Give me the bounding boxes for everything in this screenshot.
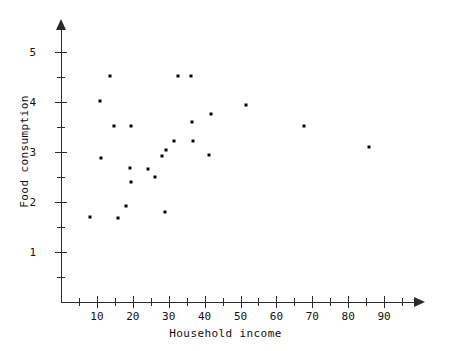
x-axis-minor-tick	[115, 298, 116, 306]
data-point	[192, 140, 195, 143]
data-point	[244, 104, 247, 107]
x-axis-tick-label: 50	[226, 310, 256, 323]
data-point	[191, 120, 194, 123]
x-axis-minor-tick	[366, 298, 367, 306]
x-axis-minor-tick	[294, 298, 295, 306]
x-axis-tick-label: 60	[261, 310, 291, 323]
y-axis-minor-tick	[57, 277, 65, 278]
y-axis-minor-tick	[57, 27, 65, 28]
data-point	[303, 125, 306, 128]
y-axis-minor-tick	[57, 177, 65, 178]
y-axis-tick	[55, 252, 67, 253]
x-axis-tick	[384, 296, 385, 308]
x-axis-tick	[312, 296, 313, 308]
data-point	[368, 146, 371, 149]
x-axis-arrow-icon	[414, 297, 425, 307]
x-axis-minor-tick	[258, 298, 259, 306]
x-axis-tick-label: 20	[118, 310, 148, 323]
y-axis-tick	[55, 152, 67, 153]
x-axis-minor-tick	[402, 298, 403, 306]
y-axis-tick	[55, 52, 67, 53]
data-point	[210, 112, 213, 115]
data-point	[124, 205, 127, 208]
x-axis-tick-label: 70	[297, 310, 327, 323]
x-axis-tick-label: 40	[190, 310, 220, 323]
data-point	[165, 149, 168, 152]
y-axis-tick-label: 1	[0, 246, 48, 259]
y-axis-tick-label: 5	[0, 46, 48, 59]
x-axis-minor-tick	[79, 298, 80, 306]
data-point	[99, 157, 102, 160]
y-axis-tick	[55, 202, 67, 203]
y-axis-arrow-icon	[56, 19, 66, 30]
scatter-plot: 12345 102030405060708090 Household incom…	[0, 0, 451, 351]
x-axis-tick	[276, 296, 277, 308]
x-axis-tick-label: 80	[333, 310, 363, 323]
y-axis-minor-tick	[57, 127, 65, 128]
x-axis-tick-label: 90	[369, 310, 399, 323]
data-point	[113, 125, 116, 128]
data-point	[208, 153, 211, 156]
x-axis-tick	[169, 296, 170, 308]
x-axis-title: Household income	[0, 327, 451, 340]
x-axis-tick-label: 30	[154, 310, 184, 323]
y-axis-minor-tick	[57, 77, 65, 78]
x-axis-tick	[97, 296, 98, 308]
y-axis-tick	[55, 102, 67, 103]
x-axis-tick	[241, 296, 242, 308]
data-point	[177, 75, 180, 78]
data-point	[108, 75, 111, 78]
x-axis-tick-label: 10	[82, 310, 112, 323]
data-point	[99, 100, 102, 103]
data-point	[117, 217, 120, 220]
data-point	[173, 140, 176, 143]
x-axis-minor-tick	[151, 298, 152, 306]
data-point	[189, 75, 192, 78]
y-axis-minor-tick	[57, 227, 65, 228]
data-point	[146, 167, 149, 170]
y-axis-title: Food consumption	[18, 72, 31, 232]
data-point	[130, 181, 133, 184]
data-point	[160, 155, 163, 158]
data-point	[89, 216, 92, 219]
x-axis-tick	[133, 296, 134, 308]
x-axis-minor-tick	[223, 298, 224, 306]
data-point	[128, 167, 131, 170]
x-axis-minor-tick	[187, 298, 188, 306]
data-point	[163, 211, 166, 214]
y-axis-line	[61, 28, 62, 303]
x-axis-tick	[205, 296, 206, 308]
data-point	[130, 124, 133, 127]
x-axis-minor-tick	[330, 298, 331, 306]
x-axis-tick	[348, 296, 349, 308]
data-point	[154, 176, 157, 179]
